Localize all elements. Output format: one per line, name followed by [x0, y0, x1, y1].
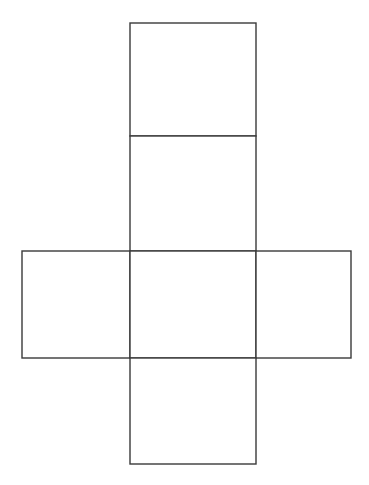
face-bottom [130, 358, 256, 464]
face-top [130, 23, 256, 136]
cube-net-diagram [0, 0, 369, 485]
face-upper-middle [130, 136, 256, 251]
face-left [22, 251, 130, 358]
face-right [256, 251, 351, 358]
face-center [130, 251, 256, 358]
